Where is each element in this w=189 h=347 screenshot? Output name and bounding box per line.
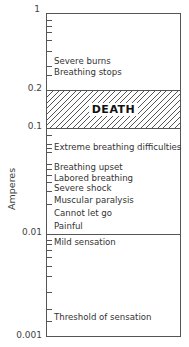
- tick: [47, 244, 52, 245]
- item-muscular-paralysis: Muscular paralysis: [54, 195, 134, 205]
- tick: [47, 20, 52, 21]
- tick: [47, 204, 52, 205]
- item-severe-burns: Severe burns: [54, 56, 111, 66]
- tick: [47, 257, 52, 258]
- y-label-0.01: 0.01: [2, 227, 42, 237]
- tick: [47, 164, 52, 165]
- item-severe-shock: Severe shock: [54, 183, 111, 193]
- axis-title: Amperes: [6, 168, 17, 210]
- tick: [47, 169, 52, 170]
- tick: [47, 250, 52, 251]
- tick: [47, 40, 52, 41]
- item-breathing-upset: Breathing upset: [54, 162, 123, 172]
- item-painful: Painful: [54, 221, 83, 231]
- tick: [47, 51, 52, 52]
- death-label: DEATH: [47, 103, 180, 116]
- tick: [47, 148, 52, 149]
- y-label-0.1: 0.1: [2, 121, 42, 131]
- item-cannot-let-go: Cannot let go: [54, 208, 112, 218]
- tick: [47, 292, 52, 293]
- chart-frame: DEATH Severe burns Breathing stops Extre…: [46, 13, 181, 337]
- tick: [47, 135, 52, 136]
- y-label-0.2: 0.2: [2, 83, 42, 93]
- death-band: DEATH: [47, 90, 180, 129]
- tick: [47, 266, 52, 267]
- tick: [47, 182, 52, 183]
- item-breathing-stops: Breathing stops: [54, 67, 122, 77]
- tick: [47, 309, 52, 310]
- tick: [47, 66, 52, 67]
- y-label-0.001: 0.001: [2, 330, 42, 340]
- tick: [47, 32, 52, 33]
- tick: [47, 276, 52, 277]
- item-labored-breathing: Labored breathing: [54, 173, 133, 183]
- divider-0.01: [47, 234, 180, 235]
- y-label-1: 1: [0, 4, 40, 14]
- tick: [47, 75, 52, 76]
- tick: [47, 144, 52, 145]
- tick: [47, 191, 52, 192]
- tick: [47, 240, 52, 241]
- item-extreme-breathing: Extreme breathing difficulties: [54, 142, 181, 152]
- item-mild-sensation: Mild sensation: [54, 237, 116, 247]
- tick: [47, 321, 52, 322]
- tick: [47, 175, 52, 176]
- tick: [47, 152, 52, 153]
- item-threshold: Threshold of sensation: [54, 312, 152, 322]
- tick: [47, 26, 52, 27]
